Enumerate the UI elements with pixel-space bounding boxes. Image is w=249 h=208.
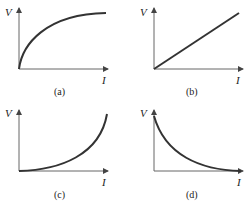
caption: (c)	[54, 189, 65, 201]
y-axis-label: V	[140, 6, 148, 18]
curve-c	[19, 114, 107, 171]
caption: (b)	[186, 86, 198, 98]
panel-a: V I (a)	[5, 6, 108, 98]
x-axis-label: I	[101, 176, 107, 188]
caption: (a)	[54, 86, 65, 98]
panel-d: V I (d)	[140, 107, 243, 201]
caption: (d)	[186, 189, 198, 201]
y-axis-label: V	[140, 107, 148, 119]
x-axis-label: I	[236, 176, 242, 188]
curve-b	[154, 13, 239, 69]
curve-d	[154, 116, 241, 171]
panel-b: V I (b)	[140, 6, 243, 98]
y-axis-label: V	[5, 6, 13, 18]
vi-graphs-figure: V I (a) V I (b) V I (c) V I (d)	[0, 0, 249, 208]
x-axis-label: I	[235, 74, 241, 86]
x-axis-label: I	[101, 74, 107, 86]
y-axis-label: V	[5, 107, 13, 119]
panel-c: V I (c)	[5, 107, 108, 201]
curve-a	[19, 13, 106, 69]
